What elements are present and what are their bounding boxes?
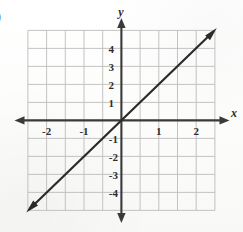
x-axis-label: x <box>230 106 237 120</box>
x-tick-label: 2 <box>193 125 199 137</box>
y-tick-label: 3 <box>109 61 115 73</box>
y-axis-up-arrow-icon <box>117 18 125 28</box>
x-axis-right-arrow-icon <box>220 116 230 124</box>
x-tick-label: -1 <box>79 125 88 137</box>
y-axis-down-arrow-icon <box>117 213 125 223</box>
x-tick-label: 1 <box>156 125 162 137</box>
y-tick-label: -3 <box>109 169 119 181</box>
y-tick-label: 2 <box>109 79 115 91</box>
x-axis-left-arrow-icon <box>15 116 25 124</box>
coordinate-plane-plot: 4 3 2 1 -1 -2 -3 -4 -2 -1 1 2 y x <box>0 0 243 232</box>
graph-screenshot: ) <box>0 0 243 232</box>
y-tick-label: -2 <box>109 151 119 163</box>
y-tick-label: 1 <box>109 97 115 109</box>
y-tick-label: -1 <box>109 133 118 145</box>
y-tick-label: -4 <box>109 187 119 199</box>
y-axis-label: y <box>116 5 124 19</box>
y-tick-label: 4 <box>109 43 115 55</box>
x-tick-label: -2 <box>42 125 52 137</box>
